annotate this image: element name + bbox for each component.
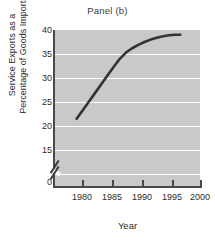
x-tick-label-2000: 2000: [183, 192, 215, 202]
plot-area: [55, 30, 200, 186]
y-tick-label-20: 20: [6, 122, 52, 131]
y-axis-tick-labels: 40 35 30 25 20 15 0: [0, 0, 52, 243]
x-tick-label-1980: 1980: [65, 192, 99, 202]
y-tick-label-30: 30: [6, 74, 52, 83]
x-tick-label-1985: 1985: [95, 192, 129, 202]
x-tick-mark-1985: [112, 180, 114, 186]
data-series-line: [55, 30, 200, 186]
y-tick-label-35: 35: [6, 50, 52, 59]
x-tick-label-1990: 1990: [125, 192, 159, 202]
x-tick-mark-1980: [82, 180, 84, 186]
y-axis-break-icon: [46, 158, 64, 180]
x-tick-mark-1990: [142, 180, 144, 186]
x-tick-mark-2000: [200, 180, 202, 186]
chart-figure: Panel (b) Service Exports as a Percentag…: [0, 0, 215, 243]
y-tick-label-15: 15: [6, 146, 52, 155]
y-tick-label-40: 40: [6, 26, 52, 35]
x-tick-mark-1995: [172, 180, 174, 186]
x-axis-line: [53, 186, 202, 188]
y-tick-label-25: 25: [6, 98, 52, 107]
x-axis-title: Year: [55, 220, 200, 231]
